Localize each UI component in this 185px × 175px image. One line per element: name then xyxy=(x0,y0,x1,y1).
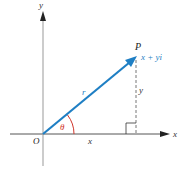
point-label: P xyxy=(134,41,141,52)
vector-r xyxy=(43,62,130,134)
complex-plane-diagram: y x O P x + yi r θ x y xyxy=(0,0,185,175)
y-axis-arrow-icon xyxy=(40,11,46,21)
angle-arc xyxy=(68,115,75,134)
vector-label: r xyxy=(82,87,86,97)
angle-label: θ xyxy=(60,122,65,132)
origin-label: O xyxy=(33,136,40,146)
point-value: x + yi xyxy=(140,52,163,62)
x-axis-label: x xyxy=(172,129,177,139)
x-axis-arrow-icon xyxy=(160,131,170,137)
vertical-leg-label: y xyxy=(138,85,143,95)
right-angle-marker xyxy=(126,123,136,134)
y-axis-label: y xyxy=(38,0,43,10)
horizontal-leg-label: x xyxy=(87,136,92,146)
